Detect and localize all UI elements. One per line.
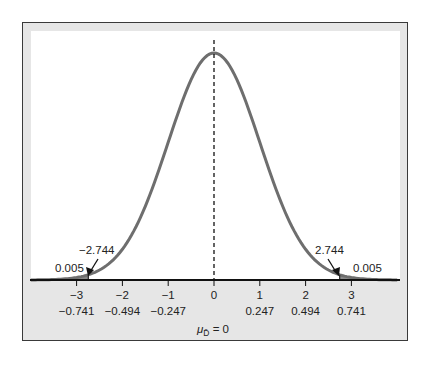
x-tick-labels: −3−0.741−2−0.494−1−0.247010.24720.49430.… [59, 289, 366, 317]
chart-plot: −2.744 2.744 0.005 0.005 −3−0.741−2−0.49… [0, 0, 431, 366]
x-tick-label-raw: 0.247 [245, 305, 274, 317]
x-tick-label-raw: 0.494 [291, 305, 320, 317]
mean-label: μD̄ = 0 [196, 323, 229, 338]
tail-area-right-label: 0.005 [353, 262, 382, 274]
x-tick-label-raw: −0.741 [59, 305, 95, 317]
x-tick-label-z: −1 [162, 289, 175, 301]
x-tick-label-z: −3 [70, 289, 83, 301]
x-tick-label-raw: 0.741 [337, 305, 366, 317]
x-tick-label-z: −2 [116, 289, 129, 301]
x-tick-label-z: 1 [257, 289, 263, 301]
critical-value-right-label: 2.744 [315, 244, 344, 256]
x-tick-label-z: 0 [211, 289, 217, 301]
tail-area-left-label: 0.005 [55, 262, 84, 274]
plot-area [31, 31, 400, 280]
x-tick-label-z: 2 [302, 289, 308, 301]
critical-value-left-label: −2.744 [79, 244, 115, 256]
x-tick-label-raw: −0.247 [150, 305, 186, 317]
x-tick-label-raw: −0.494 [105, 305, 141, 317]
x-tick-label-z: 3 [348, 289, 354, 301]
